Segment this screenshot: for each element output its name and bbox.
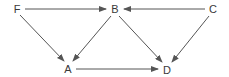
directed-graph: F B C A D [0, 0, 229, 77]
node-f: F [14, 3, 21, 15]
node-c: C [209, 3, 217, 15]
edge-b-to-a [73, 16, 111, 61]
node-b: B [111, 3, 118, 15]
edge-f-to-a [20, 15, 64, 61]
edge-c-to-d [172, 16, 209, 62]
edge-b-to-d [119, 16, 162, 62]
node-d: D [163, 64, 171, 76]
node-a: A [64, 63, 72, 75]
